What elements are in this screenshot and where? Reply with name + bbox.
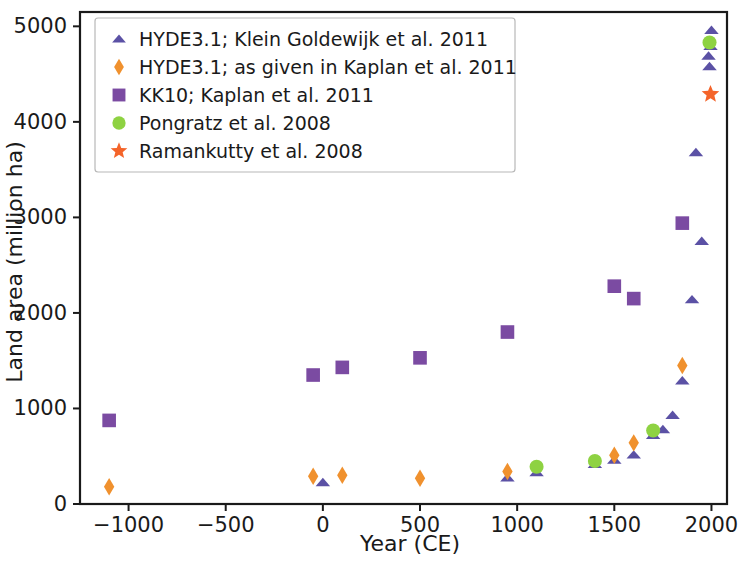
data-point xyxy=(413,351,427,365)
legend-entry-3[interactable]: KK10; Kaplan et al. 2011 xyxy=(113,84,374,106)
data-point xyxy=(627,292,641,306)
legend-label: Ramankutty et al. 2008 xyxy=(139,140,363,162)
legend-entry-2[interactable]: HYDE3.1; as given in Kaplan et al. 2011 xyxy=(114,56,517,78)
data-point xyxy=(702,36,716,50)
legend-entry-4[interactable]: Pongratz et al. 2008 xyxy=(112,112,331,134)
legend-label: HYDE3.1; as given in Kaplan et al. 2011 xyxy=(139,56,517,78)
data-point xyxy=(316,478,331,486)
data-point xyxy=(701,51,716,59)
legend-label: KK10; Kaplan et al. 2011 xyxy=(139,84,374,106)
data-point xyxy=(308,468,318,485)
y-tick-label: 5000 xyxy=(14,14,67,38)
data-point xyxy=(694,237,709,245)
data-point xyxy=(646,423,660,437)
legend-label: HYDE3.1; Klein Goldewijk et al. 2011 xyxy=(139,28,488,50)
scatter-plot-svg: −1000−5000500100015002000010002000300040… xyxy=(0,0,741,562)
data-point xyxy=(685,295,700,303)
series-5 xyxy=(702,85,720,102)
data-point xyxy=(676,216,690,230)
data-point xyxy=(629,434,639,451)
series-3 xyxy=(102,216,689,427)
data-point xyxy=(104,478,114,495)
data-point xyxy=(415,469,425,486)
data-point xyxy=(702,62,717,70)
data-point xyxy=(608,279,622,293)
y-axis-title: Land area (million ha) xyxy=(2,141,27,383)
data-point xyxy=(702,85,720,102)
data-point xyxy=(306,368,320,382)
chart-figure: −1000−5000500100015002000010002000300040… xyxy=(0,0,741,562)
legend-label: Pongratz et al. 2008 xyxy=(139,112,331,134)
data-point xyxy=(675,376,690,384)
x-tick-label: 1500 xyxy=(588,513,641,537)
legend-entry-1[interactable]: HYDE3.1; Klein Goldewijk et al. 2011 xyxy=(112,28,488,50)
data-point xyxy=(501,325,515,339)
y-tick-label: 1000 xyxy=(14,396,67,420)
data-point xyxy=(337,467,347,484)
data-point xyxy=(704,25,719,33)
x-tick-label: 0 xyxy=(316,513,329,537)
x-tick-label: 2000 xyxy=(685,513,738,537)
data-point xyxy=(588,454,602,468)
chart-legend[interactable]: HYDE3.1; Klein Goldewijk et al. 2011HYDE… xyxy=(95,18,517,172)
data-point xyxy=(677,357,687,374)
x-tick-label: −1000 xyxy=(93,513,164,537)
legend-marker xyxy=(112,116,125,129)
x-tick-label: 1000 xyxy=(490,513,543,537)
data-point xyxy=(335,361,349,375)
legend-marker xyxy=(113,89,126,102)
y-tick-label: 4000 xyxy=(14,110,67,134)
data-point xyxy=(102,414,116,428)
x-axis-title: Year (CE) xyxy=(359,531,460,556)
series-4 xyxy=(530,36,717,474)
data-point xyxy=(530,460,544,474)
x-tick-label: −500 xyxy=(197,513,255,537)
y-tick-label: 0 xyxy=(54,492,67,516)
data-point xyxy=(689,148,704,156)
data-point xyxy=(665,410,680,418)
series-2 xyxy=(104,357,688,496)
legend-entry-5[interactable]: Ramankutty et al. 2008 xyxy=(111,140,363,162)
